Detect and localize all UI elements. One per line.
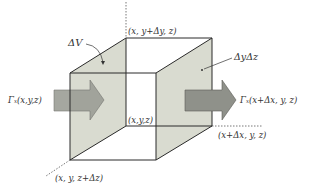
control-volume-diagram: ΔV (x, y+Δy, z) ΔyΔz Γₓ(x,y,z) Γₓ(x+Δx, …	[0, 0, 319, 194]
origin-label: (x,y,z)	[128, 116, 153, 125]
face-area-label: ΔyΔz	[234, 52, 258, 62]
flux-in-label: Γₓ(x,y,z)	[8, 96, 42, 105]
face-area-pointer-dot	[201, 69, 203, 71]
z-corner-label: (x, y, z+Δz)	[55, 174, 103, 183]
delta-v-label: ΔV	[68, 38, 82, 48]
flux-out-label: Γₓ(x+Δx, y, z)	[240, 96, 297, 105]
top-corner-label: (x, y+Δy, z)	[128, 27, 176, 36]
x-corner-label: (x+Δx, y, z)	[218, 131, 266, 140]
